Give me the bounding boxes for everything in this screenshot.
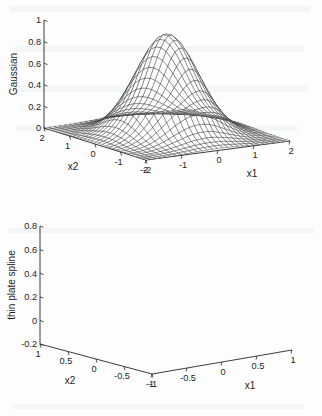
- tick-label: -0.5: [180, 373, 196, 383]
- thin-plate-spline-surface-figure: -0.200.20.40.60.8thin plate spline-1-0.5…: [0, 196, 322, 416]
- tick-label: -1: [114, 157, 122, 167]
- tick-label: 0.4: [24, 269, 37, 279]
- tick-label: 0: [32, 316, 37, 326]
- tick-label: 0.4: [28, 80, 41, 90]
- tick-label: -1: [179, 160, 187, 170]
- gaussian-surface-figure: 00.20.40.60.81Gaussian-2-1012x1210-1-2x2: [0, 0, 322, 200]
- z-axis-title: thin plate spline: [6, 250, 17, 320]
- tick-label: 1: [65, 141, 70, 151]
- x-axis-title: x1: [247, 168, 258, 179]
- tick-label: 0.5: [252, 361, 265, 371]
- tick-label: 1: [35, 349, 40, 359]
- tick-label: 0.8: [24, 221, 37, 231]
- tick-label: 0.8: [28, 37, 41, 47]
- gaussian-plot-svg: 00.20.40.60.81Gaussian-2-1012x1210-1-2x2: [0, 0, 322, 200]
- tick-label: 2: [288, 146, 293, 156]
- tick-label: 0: [216, 155, 221, 165]
- tick-label: 0.5: [60, 356, 73, 366]
- z-axis-title: Gaussian: [8, 53, 19, 95]
- tick-label: 0: [220, 367, 225, 377]
- y-axis-title: x2: [68, 161, 79, 172]
- tick-label: -0.5: [114, 371, 130, 381]
- tick-label: 0: [90, 149, 95, 159]
- tick-label: 0.6: [24, 245, 37, 255]
- tick-label: 1: [290, 355, 295, 365]
- tick-label: -1: [146, 379, 154, 389]
- tick-label: 2: [39, 133, 44, 143]
- tick-label: 0.6: [28, 59, 41, 69]
- tick-label: 1: [252, 150, 257, 160]
- tick-label: -2: [140, 165, 148, 175]
- tick-label: 0.2: [28, 102, 41, 112]
- figure-page: 00.20.40.60.81Gaussian-2-1012x1210-1-2x2…: [0, 0, 322, 416]
- tick-label: 1: [36, 15, 41, 25]
- x-axis-title: x1: [245, 380, 256, 391]
- tick-label: 0.2: [24, 292, 37, 302]
- tick-label: 0: [91, 364, 96, 374]
- thin-plate-spline-plot-svg: -0.200.20.40.60.8thin plate spline-1-0.5…: [0, 196, 322, 416]
- y-axis-title: x2: [65, 375, 76, 386]
